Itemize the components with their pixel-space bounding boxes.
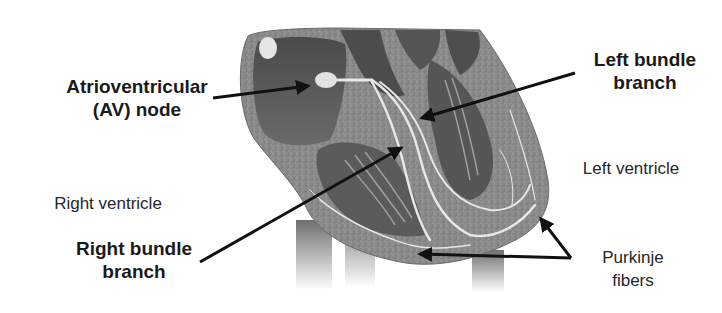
label-right-bundle-line1: Right bundle xyxy=(64,237,204,260)
label-av-node: Atrioventricular (AV) node xyxy=(42,75,232,121)
label-right-bundle-branch: Right bundle branch xyxy=(64,237,204,283)
sa-node xyxy=(259,37,277,59)
label-left-bundle-line1: Left bundle xyxy=(580,48,710,71)
label-right-bundle-line2: branch xyxy=(64,260,204,283)
label-purkinje-line1: Purkinje xyxy=(583,246,683,269)
label-av-node-line2: (AV) node xyxy=(42,98,232,121)
label-purkinje-line2: fibers xyxy=(583,269,683,292)
label-right-ventricle: Right ventricle xyxy=(38,192,178,215)
av-node xyxy=(315,72,337,88)
label-left-bundle-branch: Left bundle branch xyxy=(580,48,710,94)
label-left-bundle-line2: branch xyxy=(580,71,710,94)
label-av-node-line1: Atrioventricular xyxy=(42,75,232,98)
heart-conduction-diagram: Atrioventricular (AV) node Left bundle b… xyxy=(0,0,722,313)
purkinje-arrow-upper xyxy=(541,219,571,258)
label-left-ventricle: Left ventricle xyxy=(566,157,696,180)
label-purkinje-fibers: Purkinje fibers xyxy=(583,246,683,292)
